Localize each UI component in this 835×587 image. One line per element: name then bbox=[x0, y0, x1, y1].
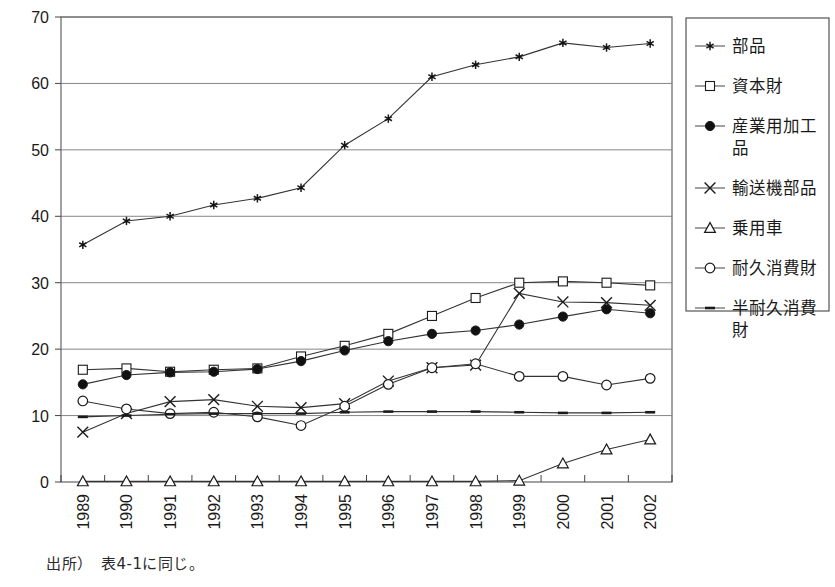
series-marker bbox=[558, 312, 567, 321]
series-marker bbox=[122, 404, 132, 414]
y-axis-tick-label: 10 bbox=[31, 408, 49, 425]
legend-label: 輸送機部品 bbox=[732, 179, 817, 198]
legend-marker-circle-icon bbox=[705, 121, 714, 130]
series-marker bbox=[427, 363, 437, 373]
series-marker bbox=[296, 357, 305, 366]
legend-marker-circle-icon bbox=[705, 263, 715, 273]
legend-label: 乗用車 bbox=[732, 219, 783, 238]
series-marker bbox=[427, 329, 436, 338]
y-axis-tick-label: 50 bbox=[31, 142, 49, 159]
series-marker bbox=[78, 365, 87, 374]
chart-figure: 0102030405060701989199019911992199319941… bbox=[0, 0, 835, 587]
series-marker bbox=[427, 311, 436, 320]
series-marker bbox=[646, 281, 655, 290]
legend-marker-square-icon bbox=[706, 82, 715, 91]
series-marker bbox=[558, 277, 567, 286]
x-axis-tick-label: 2000 bbox=[555, 494, 572, 530]
x-axis-tick-label: 1990 bbox=[118, 494, 135, 530]
series-marker bbox=[209, 407, 219, 417]
series-marker bbox=[471, 359, 481, 369]
legend-label: 資本財 bbox=[732, 77, 783, 96]
series-marker bbox=[471, 293, 480, 302]
series-marker bbox=[602, 380, 612, 390]
x-axis-tick-label: 1996 bbox=[380, 494, 397, 530]
x-axis-tick-label: 1989 bbox=[75, 494, 92, 530]
series-marker bbox=[253, 364, 262, 373]
series-marker bbox=[78, 396, 88, 406]
x-axis-tick-label: 1994 bbox=[293, 494, 310, 530]
series-marker bbox=[78, 380, 87, 389]
series-marker bbox=[340, 401, 350, 411]
y-axis-tick-label: 0 bbox=[40, 474, 49, 491]
x-axis-tick-label: 1991 bbox=[162, 494, 179, 530]
legend-label: 半耐久消費 bbox=[732, 299, 817, 318]
x-axis-tick-label: 2002 bbox=[642, 494, 659, 530]
legend: 部品資本財産業用加工品輸送機部品乗用車耐久消費財半耐久消費財 bbox=[686, 18, 829, 340]
series-marker bbox=[646, 309, 655, 318]
y-axis-tick-label: 40 bbox=[31, 208, 49, 225]
legend-label-cont: 財 bbox=[732, 321, 749, 340]
legend-label-cont: 品 bbox=[732, 139, 749, 158]
legend-label: 耐久消費財 bbox=[732, 259, 817, 278]
series-marker bbox=[558, 372, 568, 382]
series-marker bbox=[602, 278, 611, 287]
x-axis-tick-label: 1999 bbox=[511, 494, 528, 530]
y-axis-tick-label: 30 bbox=[31, 275, 49, 292]
x-axis-tick-label: 1995 bbox=[337, 494, 354, 530]
series-marker bbox=[384, 380, 394, 390]
x-axis-tick-label: 1998 bbox=[468, 494, 485, 530]
legend-label: 部品 bbox=[732, 37, 766, 56]
y-axis-tick-label: 70 bbox=[31, 9, 49, 26]
x-axis-labels: 1989199019911992199319941995199619971998… bbox=[61, 475, 672, 530]
x-axis-tick-label: 1993 bbox=[249, 494, 266, 530]
y-axis-tick-label: 20 bbox=[31, 341, 49, 358]
x-axis-tick-label: 1992 bbox=[206, 494, 223, 530]
series-marker bbox=[209, 367, 218, 376]
y-axis-tick-label: 60 bbox=[31, 75, 49, 92]
series-marker bbox=[515, 320, 524, 329]
series-marker bbox=[645, 374, 655, 384]
series-marker bbox=[340, 346, 349, 355]
series-marker bbox=[515, 278, 524, 287]
figure-source-caption: 出所） 表4-1に同じ。 bbox=[46, 552, 205, 573]
series-marker bbox=[384, 337, 393, 346]
series-marker bbox=[122, 370, 131, 379]
x-axis-tick-label: 2001 bbox=[599, 494, 616, 530]
series-marker bbox=[471, 326, 480, 335]
x-axis-tick-label: 1997 bbox=[424, 494, 441, 530]
legend-label: 産業用加工 bbox=[732, 117, 817, 136]
series-marker bbox=[514, 372, 524, 382]
line-chart: 0102030405060701989199019911992199319941… bbox=[0, 0, 835, 587]
series-marker bbox=[166, 368, 175, 377]
series-marker bbox=[296, 421, 306, 431]
